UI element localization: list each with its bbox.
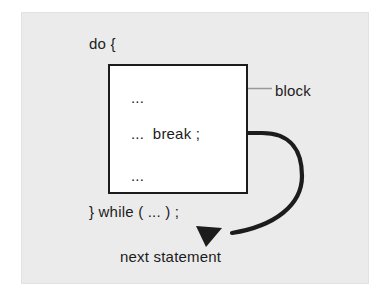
- figure-canvas: do { ... ... break ; ... } while ( ... )…: [0, 0, 386, 298]
- label-next-statement: next statement: [120, 249, 221, 264]
- label-block: block: [275, 83, 311, 98]
- code-line-break: ... break ;: [131, 126, 200, 141]
- code-line-while: } while ( ... ) ;: [89, 204, 179, 219]
- break-jump-arrowhead-icon: [196, 226, 222, 247]
- code-line-ellipsis-bottom: ...: [131, 168, 144, 183]
- code-line-ellipsis-top: ...: [131, 90, 144, 105]
- code-line-do: do {: [89, 36, 116, 51]
